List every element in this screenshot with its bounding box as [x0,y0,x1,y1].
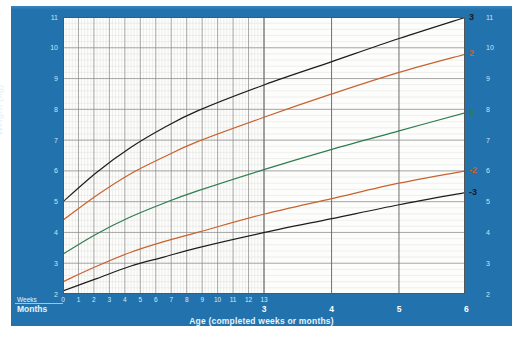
weeks-row-label: Weeks [17,296,37,303]
y-tick-right-5: 5 [486,198,504,205]
y-tick-7: 7 [40,137,58,144]
y-axis-title: Weight (kg) [0,70,4,150]
z-label-neg3: -3 [469,188,485,197]
growth-chart-page: Weight (kg) 234567891011 234567891011 32… [0,0,523,337]
y-tick-right-9: 9 [486,75,504,82]
y-tick-10: 10 [40,44,58,51]
y-tick-right-7: 7 [486,137,504,144]
y-tick-right-2: 2 [486,291,504,298]
y-tick-5: 5 [40,198,58,205]
week-tick-5: 5 [133,296,147,303]
month-tick-6: 6 [457,305,475,314]
y-tick-3: 3 [40,260,58,267]
grid-and-curves [63,17,465,294]
plot-inner [63,17,465,294]
x-axis-title: Age (completed weeks or months) [0,316,523,326]
y-tick-right-10: 10 [486,44,504,51]
week-tick-9: 9 [195,296,209,303]
months-row-label: Months [17,305,47,314]
week-tick-2: 2 [87,296,101,303]
y-tick-right-4: 4 [486,229,504,236]
week-tick-0: 0 [56,296,70,303]
y-tick-right-8: 8 [486,106,504,113]
panel-top-highlight [11,6,512,10]
week-tick-6: 6 [149,296,163,303]
month-tick-3: 3 [255,305,273,314]
week-tick-13: 13 [257,296,271,303]
z-label-3: 3 [469,13,485,22]
week-tick-7: 7 [164,296,178,303]
y-tick-right-6: 6 [486,167,504,174]
week-tick-11: 11 [226,296,240,303]
z-label-0: 0 [469,108,485,117]
week-tick-1: 1 [72,296,86,303]
z-label-2: 2 [469,49,485,58]
week-tick-10: 10 [211,296,225,303]
axis-row-divider [15,303,63,304]
y-tick-9: 9 [40,75,58,82]
week-tick-4: 4 [118,296,132,303]
y-tick-right-3: 3 [486,260,504,267]
month-tick-5: 5 [390,305,408,314]
week-tick-3: 3 [102,296,116,303]
y-tick-8: 8 [40,106,58,113]
y-tick-right-11: 11 [486,14,504,21]
y-tick-4: 4 [40,229,58,236]
y-tick-6: 6 [40,167,58,174]
y-tick-11: 11 [40,14,58,21]
week-tick-12: 12 [242,296,256,303]
plot-area [63,17,465,294]
month-tick-4: 4 [323,305,341,314]
z-label-neg2: -2 [469,166,485,175]
week-tick-8: 8 [180,296,194,303]
